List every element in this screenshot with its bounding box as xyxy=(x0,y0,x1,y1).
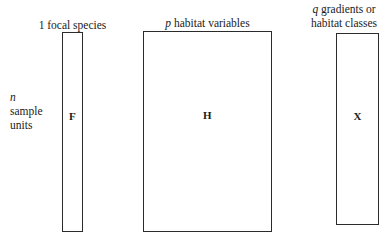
row-label-line2: units xyxy=(10,118,60,132)
x-column-label-line1: gradients or xyxy=(321,3,376,15)
row-count-symbol: n xyxy=(10,90,60,104)
x-matrix-rectangle xyxy=(336,33,379,225)
f-column-count-symbol: 1 xyxy=(39,19,45,31)
h-matrix-letter: H xyxy=(143,110,272,121)
matrix-diagram: 1 focal species p habitat variables q gr… xyxy=(0,0,392,237)
x-column-count-symbol: q xyxy=(312,3,318,15)
h-column-label-text: habitat variables xyxy=(174,17,250,29)
x-matrix-column-label: q gradients or habitat classes xyxy=(296,3,392,30)
h-matrix-rectangle xyxy=(143,31,272,232)
f-column-label-text: focal species xyxy=(47,19,106,31)
f-matrix-column-label: 1 focal species xyxy=(3,19,142,33)
row-label-line1: sample xyxy=(10,104,60,118)
x-matrix-letter: X xyxy=(336,111,379,122)
x-column-label-line2: habitat classes xyxy=(311,17,377,29)
f-matrix-rectangle xyxy=(62,32,83,232)
h-matrix-column-label: p habitat variables xyxy=(143,17,272,31)
h-column-count-symbol: p xyxy=(165,17,171,29)
f-matrix-row-label: n sample units xyxy=(10,90,60,132)
f-matrix-letter: F xyxy=(62,111,83,122)
